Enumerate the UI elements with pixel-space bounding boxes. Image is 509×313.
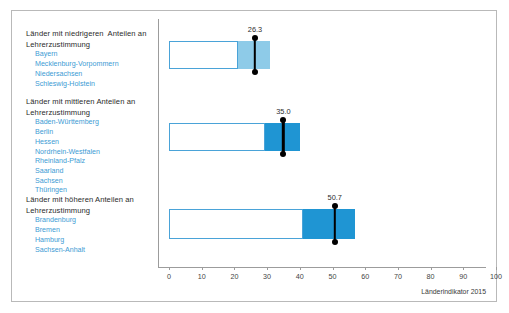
plot-area: 0102030405060708090100 26.3 35.0: [158, 11, 496, 301]
figure-container: Länder mit niedrigeren Anteilen an Lehre…: [11, 10, 497, 302]
axis-tick-label: 30: [263, 272, 271, 281]
axis-tick-mark: [267, 267, 268, 270]
state-list: Brandenburg Bremen Hamburg Sachsen-Anhal…: [26, 216, 162, 255]
axis-tick-mark: [300, 267, 301, 270]
list-item: Saarland: [26, 167, 162, 177]
error-bar-cap-bottom: [332, 239, 338, 245]
category-label-column: Länder mit niedrigeren Anteilen an Lehre…: [12, 11, 158, 301]
error-bar-cap-bottom: [252, 69, 258, 75]
axis-tick-mark: [234, 267, 235, 270]
group-heading: Länder mit niedrigeren Anteilen an Lehre…: [26, 28, 162, 50]
error-bar: 26.3: [249, 38, 261, 72]
error-bar: 35.0: [277, 120, 289, 154]
axis-tick-mark: [365, 267, 366, 270]
axis-tick-label: 100: [490, 272, 502, 281]
axis-tick-mark: [431, 267, 432, 270]
value-axis-line: [158, 267, 486, 268]
list-item: Baden-Württemberg: [26, 118, 162, 128]
axis-tick-label: 10: [198, 272, 206, 281]
list-item: Mecklenburg-Vorpommern: [26, 60, 162, 70]
bar-box-light: [169, 209, 303, 239]
list-item: Schleswig-Holstein: [26, 80, 162, 90]
group-heading: Länder mit höheren Anteilen an Lehrerzus…: [26, 194, 162, 216]
value-label: 35.0: [276, 107, 290, 116]
axis-tick-label: 50: [329, 272, 337, 281]
axis-tick-mark: [496, 267, 497, 270]
error-bar-cap-top: [280, 117, 286, 123]
source-note: Länderindikator 2015: [421, 288, 486, 295]
error-bar-line: [334, 206, 336, 242]
group-block-mittlere: Länder mit mittleren Anteilen an Lehrerz…: [26, 96, 162, 196]
axis-tick-label: 60: [361, 272, 369, 281]
axis-tick-label: 90: [459, 272, 467, 281]
group-block-hoehere: Länder mit höheren Anteilen an Lehrerzus…: [26, 194, 162, 255]
state-list: Bayern Mecklenburg-Vorpommern Niedersach…: [26, 50, 162, 89]
list-item: Bremen: [26, 226, 162, 236]
group-block-niedrigere: Länder mit niedrigeren Anteilen an Lehre…: [26, 28, 162, 89]
list-item: Brandenburg: [26, 216, 162, 226]
error-bar-line: [254, 38, 256, 72]
error-bar-line: [282, 120, 284, 154]
list-item: Berlin: [26, 128, 162, 138]
axis-tick-mark: [463, 267, 464, 270]
axis-tick-mark: [169, 267, 170, 270]
axis-tick-mark: [333, 267, 334, 270]
list-item: Hamburg: [26, 236, 162, 246]
axis-tick-label: 20: [230, 272, 238, 281]
error-bar-cap-bottom: [280, 151, 286, 157]
error-bar-cap-top: [252, 35, 258, 41]
axis-tick-label: 40: [296, 272, 304, 281]
axis-tick-mark: [202, 267, 203, 270]
list-item: Nordrhein-Westfalen: [26, 148, 162, 158]
state-list: Baden-Württemberg Berlin Hessen Nordrhei…: [26, 118, 162, 196]
list-item: Niedersachsen: [26, 70, 162, 80]
value-label: 26.3: [248, 25, 262, 34]
error-bar: 50.7: [329, 206, 341, 242]
category-axis-line: [158, 19, 159, 267]
list-item: Sachsen: [26, 177, 162, 187]
list-item: Hessen: [26, 138, 162, 148]
list-item: Bayern: [26, 50, 162, 60]
value-label: 50.7: [328, 193, 342, 202]
bar-box-light: [169, 123, 265, 151]
error-bar-cap-top: [332, 203, 338, 209]
bar-box-light: [169, 41, 238, 69]
axis-tick-label: 80: [427, 272, 435, 281]
axis-tick-mark: [398, 267, 399, 270]
list-item: Rheinland-Pfalz: [26, 157, 162, 167]
list-item: Sachsen-Anhalt: [26, 246, 162, 256]
axis-tick-label: 70: [394, 272, 402, 281]
group-heading: Länder mit mittleren Anteilen an Lehrerz…: [26, 96, 162, 118]
axis-tick-label: 0: [167, 272, 171, 281]
